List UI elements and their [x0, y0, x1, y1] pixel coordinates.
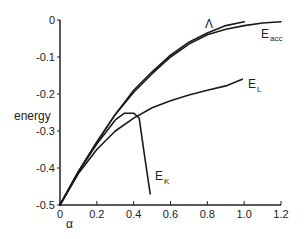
series-line-e-k — [60, 113, 150, 205]
axes — [60, 20, 281, 205]
series-sub-e-acc: acc — [270, 34, 282, 43]
x-ticks: 00.20.40.60.81.01.2 — [57, 201, 289, 220]
label-e-k: E K — [155, 169, 170, 186]
y-tick-label: -0.2 — [36, 88, 55, 100]
label-e-l: E L — [248, 77, 262, 94]
label-e-acc: E acc — [261, 27, 282, 43]
label-lambda: Λ — [205, 17, 213, 31]
series-line-e-acc — [60, 22, 281, 205]
series-line-- — [60, 22, 244, 205]
x-tick-label: 0.8 — [200, 208, 215, 220]
x-tick-label: 1.0 — [237, 208, 252, 220]
y-tick-label: 0 — [49, 14, 55, 26]
x-tick-label: 0.6 — [163, 208, 178, 220]
y-tick-label: -0.1 — [36, 51, 55, 63]
x-tick-label: 0.4 — [126, 208, 141, 220]
curves — [60, 22, 281, 205]
y-tick-label: -0.3 — [36, 125, 55, 137]
x-tick-label: 1.2 — [273, 208, 288, 220]
series-sub-e-l: L — [257, 85, 262, 94]
series-label-e-l: E — [248, 77, 256, 91]
y-tick-label: -0.5 — [36, 199, 55, 211]
y-axis-title: energy — [14, 109, 51, 123]
x-tick-label: 0.2 — [89, 208, 104, 220]
y-tick-label: -0.4 — [36, 162, 55, 174]
x-axis-title: α — [66, 217, 73, 231]
line-chart: 00.20.40.60.81.01.2 0-0.1-0.2-0.3-0.4-0.… — [0, 0, 304, 239]
x-tick-label: 0 — [57, 208, 63, 220]
series-line-e-l — [60, 79, 242, 205]
series-label-e-k: E — [155, 169, 163, 183]
series-label-e-acc: E — [261, 27, 269, 41]
series-sub-e-k: K — [164, 177, 170, 186]
series-label-lambda: Λ — [205, 17, 213, 31]
